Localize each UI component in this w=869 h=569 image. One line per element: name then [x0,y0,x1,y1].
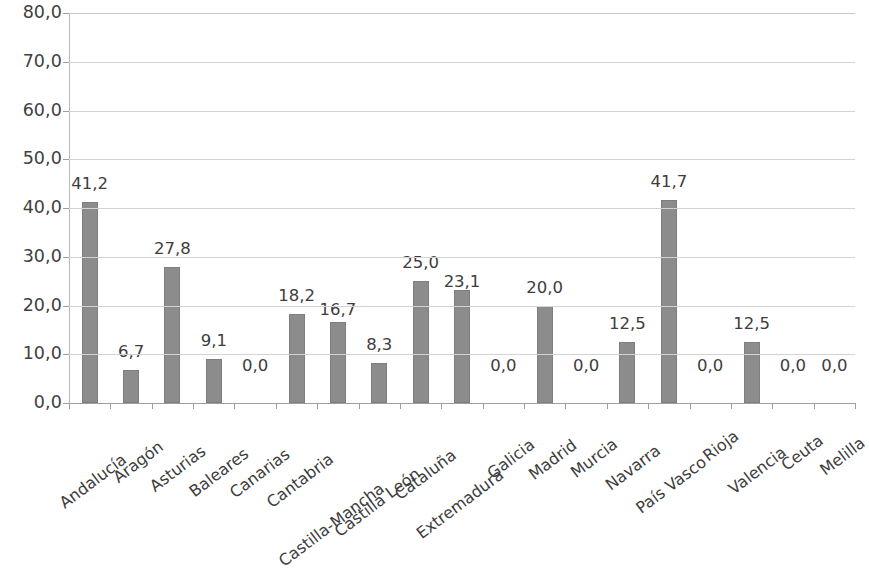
x-axis-category-labels: AndalucíaAragónAsturiasBalearesCanariasC… [69,404,855,526]
bar-value-label: 8,3 [366,337,392,354]
y-axis-tick [63,208,69,209]
gridline [69,62,855,63]
y-axis-tick-label: 70,0 [0,53,62,71]
y-axis-tick-labels: 80,070,060,050,040,030,020,010,00,0 [0,0,62,420]
bar-value-label: 23,1 [444,274,481,291]
x-axis-category-label: Rioja [701,428,742,465]
bar-value-label: 0,0 [490,358,516,375]
y-axis-tick [63,306,69,307]
gridline [69,208,855,209]
bar-value-label: 0,0 [780,358,806,375]
y-axis-tick [63,111,69,112]
y-axis-tick-label: 40,0 [0,199,62,217]
bar-value-label: 6,7 [118,344,144,361]
bar-value-label: 20,0 [526,280,563,297]
plot-area: 41,26,727,89,10,018,216,78,325,023,10,02… [69,13,855,403]
bar-value-label: 41,2 [71,176,108,193]
bar-value-label: 0,0 [697,358,723,375]
y-axis-tick-label: 0,0 [0,394,62,412]
bar-value-label: 0,0 [242,358,268,375]
bar-value-label: 18,2 [278,288,315,305]
y-axis-tick-label: 30,0 [0,248,62,266]
y-axis-tick [63,159,69,160]
gridline [69,354,855,355]
y-axis-tick [63,13,69,14]
y-axis-tick-label: 60,0 [0,102,62,120]
gridline [69,13,855,14]
gridline [69,306,855,307]
y-axis-tick [63,354,69,355]
bar-value-label: 12,5 [609,316,646,333]
gridline [69,159,855,160]
x-axis-category-label: Melilla [818,435,869,479]
bar-value-label: 27,8 [154,241,191,258]
y-axis-tick-label: 80,0 [0,4,62,22]
y-axis-tick-label: 10,0 [0,345,62,363]
bar-value-label: 12,5 [733,316,770,333]
gridline [69,111,855,112]
y-axis-tick [63,62,69,63]
bar-value-label: 0,0 [573,358,599,375]
y-axis-tick [63,257,69,258]
bar-value-label: 16,7 [320,302,357,319]
bar-value-label: 41,7 [650,174,687,191]
bar-value-label: 0,0 [821,358,847,375]
y-axis-tick-label: 50,0 [0,150,62,168]
x-axis-tick [855,403,856,409]
x-axis-category-label: Valencia [726,444,789,497]
gridline [69,257,855,258]
bar-value-label: 9,1 [201,333,227,350]
y-axis-tick-label: 20,0 [0,297,62,315]
